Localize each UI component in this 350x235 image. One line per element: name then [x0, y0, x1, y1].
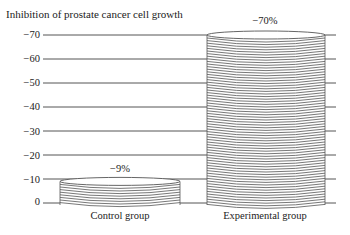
control-value-label: −9% — [100, 163, 140, 174]
y-tick-label: 0 — [16, 196, 40, 207]
y-tick-label: −10 — [16, 174, 40, 185]
bars — [60, 31, 325, 208]
y-tick-label: −30 — [16, 126, 40, 137]
y-tick-label: −20 — [16, 150, 40, 161]
chart-plot — [0, 0, 350, 235]
x-label-control: Control group — [60, 210, 180, 221]
x-label-experimental: Experimental group — [205, 210, 325, 221]
y-tick-label: −70 — [16, 29, 40, 40]
y-tick-label: −40 — [16, 101, 40, 112]
experimental-value-label: −70% — [245, 15, 285, 26]
y-tick-label: −50 — [16, 77, 40, 88]
y-tick-label: −60 — [16, 53, 40, 64]
